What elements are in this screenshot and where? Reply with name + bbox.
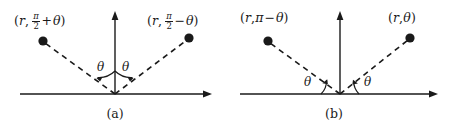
y-axis	[337, 11, 344, 94]
angle-label-left: θ	[97, 61, 104, 73]
label-theta: θ	[276, 10, 284, 25]
y-axis-arrowhead	[112, 11, 119, 20]
label-operator: −	[173, 13, 185, 28]
ray-to-left-point	[45, 43, 115, 94]
label-operator: +	[40, 13, 52, 28]
panel-b-caption: (b)	[314, 108, 354, 121]
label-close-paren: )	[60, 13, 65, 28]
right-point-label: (r,θ)	[388, 12, 416, 25]
fraction-denominator: 2	[165, 21, 173, 31]
right-point-dot	[405, 33, 414, 42]
angle-label-right: θ	[364, 76, 371, 88]
x-axis-arrowhead	[429, 91, 438, 98]
y-axis-arrowhead	[337, 11, 344, 20]
left-point-dot	[38, 36, 47, 45]
left-point-dot	[263, 36, 272, 45]
fraction-denominator: 2	[32, 21, 40, 31]
panel-a: (r, π2+θ) (r, π2−θ) θ θ (a)	[0, 0, 225, 132]
fraction-numerator: π	[165, 12, 173, 21]
right-point-label: (r, π2−θ)	[147, 12, 198, 31]
ray-to-right-point	[340, 40, 408, 94]
label-pi: π	[255, 10, 263, 25]
polar-symmetry-figure: (r, π2+θ) (r, π2−θ) θ θ (a)	[0, 0, 451, 132]
label-theta: θ	[403, 10, 411, 25]
angle-label-left: θ	[304, 76, 311, 88]
pi-over-two-fraction: π2	[32, 12, 40, 31]
left-point-label: (r,π−θ)	[240, 12, 288, 25]
right-point-dot	[184, 33, 193, 42]
angle-arc-right	[352, 80, 359, 94]
x-axis-arrowhead	[203, 91, 212, 98]
panel-b: (r,π−θ) (r,θ) θ θ (b)	[225, 0, 451, 132]
label-comma: ,	[158, 13, 162, 28]
label-comma: ,	[25, 13, 29, 28]
label-close-paren: )	[411, 10, 416, 25]
label-close-paren: )	[193, 13, 198, 28]
label-close-paren: )	[284, 10, 289, 25]
angle-label-right: θ	[122, 61, 129, 73]
left-point-label: (r, π2+θ)	[14, 12, 65, 31]
panel-a-caption: (a)	[95, 108, 135, 121]
label-operator: −	[264, 10, 276, 25]
pi-over-two-fraction: π2	[165, 12, 173, 31]
fraction-numerator: π	[32, 12, 40, 21]
y-axis	[112, 11, 119, 94]
